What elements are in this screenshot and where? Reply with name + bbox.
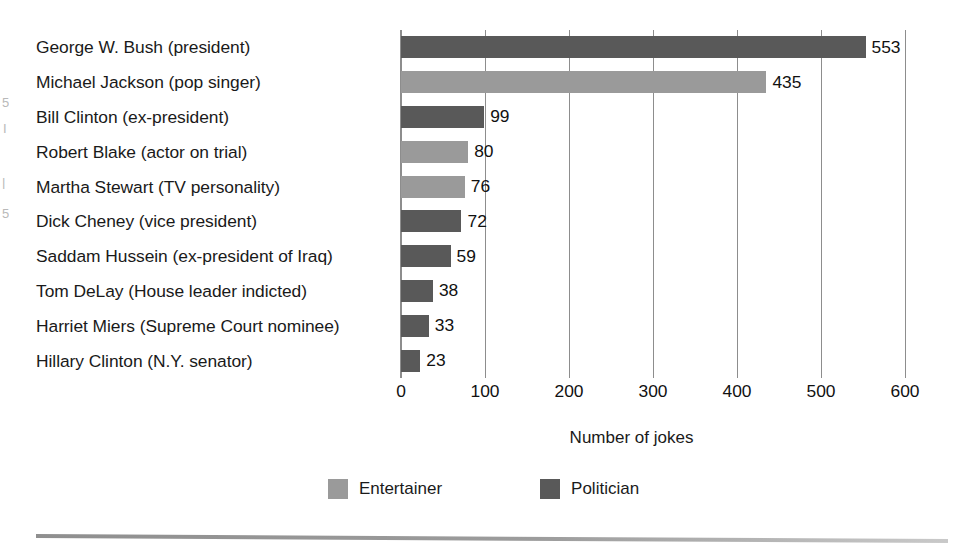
bar-category-label: Dick Cheney (vice president) bbox=[36, 211, 257, 232]
bar-category-label: Robert Blake (actor on trial) bbox=[36, 141, 247, 162]
y-axis-line bbox=[400, 30, 401, 378]
bar-politician bbox=[401, 280, 433, 302]
bar-and-value: 59 bbox=[401, 245, 476, 267]
bar-category-label: George W. Bush (president) bbox=[36, 37, 250, 58]
bar-and-value: 33 bbox=[401, 315, 454, 337]
bar-row: Saddam Hussein (ex-president of Iraq)59 bbox=[0, 239, 967, 274]
x-tick-label-100: 100 bbox=[470, 381, 499, 402]
bar-value-label: 38 bbox=[439, 280, 458, 301]
bar-politician bbox=[401, 36, 866, 58]
bar-politician bbox=[401, 245, 451, 267]
bar-category-label: Martha Stewart (TV personality) bbox=[36, 176, 280, 197]
legend-swatch-politician bbox=[540, 479, 560, 499]
scan-artifact: 5 bbox=[2, 96, 9, 109]
scan-artifact: | bbox=[2, 176, 5, 189]
bar-politician bbox=[401, 210, 461, 232]
bar-and-value: 99 bbox=[401, 106, 510, 128]
x-tick-label-0: 0 bbox=[396, 381, 406, 402]
bar-row: Michael Jackson (pop singer)435 bbox=[0, 65, 967, 100]
bar-and-value: 76 bbox=[401, 176, 490, 198]
bar-row: George W. Bush (president)553 bbox=[0, 30, 967, 65]
bar-value-label: 59 bbox=[457, 246, 476, 267]
legend-label: Entertainer bbox=[359, 479, 442, 499]
bar-entertainer bbox=[401, 141, 468, 163]
bar-category-label: Saddam Hussein (ex-president of Iraq) bbox=[36, 246, 333, 267]
x-tick-label-500: 500 bbox=[806, 381, 835, 402]
bar-value-label: 80 bbox=[474, 141, 493, 162]
bar-value-label: 76 bbox=[471, 176, 490, 197]
bar-row: Harriet Miers (Supreme Court nominee)33 bbox=[0, 308, 967, 343]
bar-entertainer bbox=[401, 176, 465, 198]
bar-and-value: 435 bbox=[401, 71, 801, 93]
legend-swatch-entertainer bbox=[328, 479, 348, 499]
bar-entertainer bbox=[401, 71, 766, 93]
bar-politician bbox=[401, 106, 484, 128]
bar-category-label: Hillary Clinton (N.Y. senator) bbox=[36, 350, 253, 371]
chart-legend: EntertainerPolitician bbox=[0, 479, 967, 499]
bar-value-label: 33 bbox=[435, 315, 454, 336]
bar-category-label: Bill Clinton (ex-president) bbox=[36, 106, 229, 127]
scan-artifact: I bbox=[3, 122, 7, 135]
bar-and-value: 72 bbox=[401, 210, 487, 232]
legend-label: Politician bbox=[571, 479, 639, 499]
bar-value-label: 99 bbox=[490, 106, 509, 127]
bar-category-label: Harriet Miers (Supreme Court nominee) bbox=[36, 315, 340, 336]
x-axis-title: Number of jokes bbox=[0, 428, 967, 448]
bar-politician bbox=[401, 350, 420, 372]
x-tick-label-300: 300 bbox=[638, 381, 667, 402]
bar-row: Hillary Clinton (N.Y. senator)23 bbox=[0, 343, 967, 378]
bottom-divider bbox=[36, 534, 948, 543]
bar-row: Robert Blake (actor on trial)80 bbox=[0, 134, 967, 169]
x-tick-label-600: 600 bbox=[890, 381, 919, 402]
bar-politician bbox=[401, 315, 429, 337]
bar-category-label: Tom DeLay (House leader indicted) bbox=[36, 280, 307, 301]
bar-chart: 0100200300400500600 George W. Bush (pres… bbox=[0, 0, 967, 550]
bar-row: Martha Stewart (TV personality)76 bbox=[0, 169, 967, 204]
bar-value-label: 435 bbox=[772, 72, 801, 93]
bar-value-label: 72 bbox=[467, 211, 486, 232]
bar-and-value: 38 bbox=[401, 280, 458, 302]
x-tick-label-200: 200 bbox=[554, 381, 583, 402]
bar-category-label: Michael Jackson (pop singer) bbox=[36, 72, 261, 93]
bar-row: Dick Cheney (vice president)72 bbox=[0, 204, 967, 239]
bar-and-value: 80 bbox=[401, 141, 494, 163]
bar-value-label: 23 bbox=[426, 350, 445, 371]
bar-value-label: 553 bbox=[872, 37, 901, 58]
legend-item-politician: Politician bbox=[540, 479, 639, 499]
bar-row: Tom DeLay (House leader indicted)38 bbox=[0, 274, 967, 309]
scan-artifact: 5 bbox=[2, 207, 9, 220]
bar-row: Bill Clinton (ex-president)99 bbox=[0, 100, 967, 135]
bar-and-value: 23 bbox=[401, 350, 446, 372]
bar-and-value: 553 bbox=[401, 36, 901, 58]
legend-item-entertainer: Entertainer bbox=[328, 479, 442, 499]
x-tick-label-400: 400 bbox=[722, 381, 751, 402]
x-axis-title-text: Number of jokes bbox=[570, 428, 694, 447]
